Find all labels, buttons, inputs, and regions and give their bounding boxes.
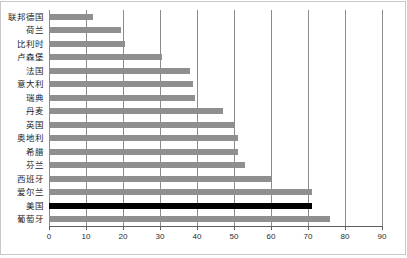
chart-decoration-layer: 联邦德国荷兰比利时卢森堡法国意大利瑞典丹麦英国奥地利希腊芬兰西班牙爱尔兰美国葡萄…	[0, 0, 407, 258]
category-label-丹麦: 丹麦	[26, 106, 44, 116]
category-label-意大利: 意大利	[17, 79, 44, 89]
x-axis-tick-label: 90	[367, 232, 397, 242]
category-label-芬兰: 芬兰	[26, 160, 44, 170]
x-axis-tick-label: 0	[34, 232, 64, 242]
category-label-英国: 英国	[26, 120, 44, 130]
category-label-爱尔兰: 爱尔兰	[17, 187, 44, 197]
x-axis-tick	[382, 226, 383, 230]
x-axis-tick-label: 70	[293, 232, 323, 242]
x-axis-tick	[345, 226, 346, 230]
x-axis-tick-label: 20	[108, 232, 138, 242]
x-axis-tick-label: 30	[145, 232, 175, 242]
category-label-奥地利: 奥地利	[17, 133, 44, 143]
x-axis-tick	[160, 226, 161, 230]
x-axis-tick	[86, 226, 87, 230]
category-label-法国: 法国	[26, 66, 44, 76]
category-label-美国: 美国	[26, 201, 44, 211]
x-axis-tick	[123, 226, 124, 230]
category-label-葡萄牙: 葡萄牙	[17, 214, 44, 224]
x-axis-tick-label: 40	[182, 232, 212, 242]
x-axis-tick	[234, 226, 235, 230]
x-axis-tick	[49, 226, 50, 230]
category-label-瑞典: 瑞典	[26, 93, 44, 103]
x-axis-tick-label: 60	[256, 232, 286, 242]
x-axis-tick	[271, 226, 272, 230]
category-label-比利时: 比利时	[17, 39, 44, 49]
x-axis-tick-label: 80	[330, 232, 360, 242]
bar-chart-figure: 联邦德国荷兰比利时卢森堡法国意大利瑞典丹麦英国奥地利希腊芬兰西班牙爱尔兰美国葡萄…	[0, 0, 407, 258]
category-label-联邦德国: 联邦德国	[8, 12, 44, 22]
x-axis-tick-label: 50	[219, 232, 249, 242]
x-axis-tick-label: 10	[71, 232, 101, 242]
category-label-西班牙: 西班牙	[17, 174, 44, 184]
category-label-希腊: 希腊	[26, 147, 44, 157]
category-label-荷兰: 荷兰	[26, 25, 44, 35]
x-axis-tick	[197, 226, 198, 230]
x-axis-tick	[308, 226, 309, 230]
category-label-卢森堡: 卢森堡	[17, 52, 44, 62]
